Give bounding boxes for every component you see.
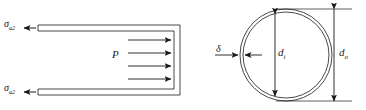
- axial-stress-arrows: [24, 28, 36, 92]
- inner-diameter-subscript: i: [284, 53, 286, 60]
- pressure-label: P: [112, 49, 119, 60]
- sigma-subscript-top: a2: [9, 24, 15, 31]
- wall-thickness-label: δ: [216, 44, 221, 54]
- pressure-vessel-figure: σa2 σa2 P δ di do: [0, 0, 366, 110]
- outer-diameter-subscript: o: [345, 53, 348, 60]
- inner-diameter-label: di: [278, 47, 285, 61]
- axial-stress-label-top: σa2: [4, 19, 15, 31]
- figure-canvas: [0, 0, 366, 110]
- vessel-outline: [38, 25, 180, 95]
- outer-diameter-label: do: [339, 47, 348, 61]
- pressure-arrows: [128, 40, 171, 79]
- axial-stress-label-bottom: σa2: [4, 83, 15, 95]
- sigma-subscript-bottom: a2: [9, 88, 15, 95]
